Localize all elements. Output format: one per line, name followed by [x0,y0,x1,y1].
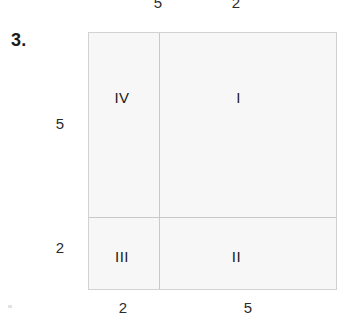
quadrant-cell-i: I [160,33,337,217]
dimension-label-left-lower: 2 [48,240,72,255]
quadrant-cell-iv: IV [89,33,159,217]
quadrant-cell-iii: III [89,218,159,290]
quadrant-label-iii: III [115,248,129,265]
figure-root: 3. 5 2 5 2 IV I III II 2 5 [0,0,351,329]
quadrant-label-i: I [236,89,241,106]
grid-divider-horizontal [89,217,336,218]
dimension-label-top-left: 5 [122,0,194,10]
dimension-label-bottom-left: 2 [88,300,158,315]
grid-divider-vertical [159,33,160,289]
scan-artifact-speck [8,305,12,308]
area-model-grid: IV I III II [88,32,337,290]
dimension-label-left-upper: 5 [48,116,72,131]
quadrant-label-ii: II [232,248,241,265]
quadrant-label-iv: IV [114,89,129,106]
quadrant-cell-ii: II [160,218,337,290]
dimension-label-bottom-right: 5 [159,300,337,315]
dimension-label-top-right: 2 [200,0,272,10]
problem-number: 3. [11,31,27,49]
